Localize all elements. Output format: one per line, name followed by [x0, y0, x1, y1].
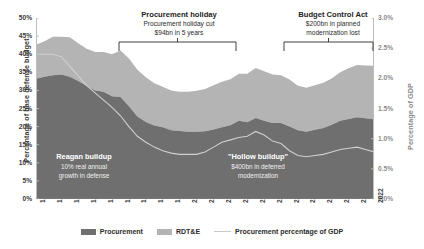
y-tick-label-right: 1.5%: [378, 105, 393, 112]
legend-item-rdte: RDT&E: [157, 228, 200, 235]
y-tick-label-left: 40%: [8, 50, 32, 57]
legend-swatch-rdte: [157, 229, 172, 235]
bracket-procurement-holiday: [118, 38, 238, 52]
annotation-line-2: $94bn in 5 years: [104, 29, 254, 38]
y-tick-label-left: 50%: [8, 14, 32, 21]
annotation-heading: Budget Control Act: [272, 10, 394, 20]
y-tick-label-right: 0.5%: [378, 165, 393, 172]
y-axis-label-right: Percentage of GDP: [406, 42, 415, 192]
bracket-budget-control-act: [283, 38, 375, 52]
y-tick-label-left: 20%: [8, 123, 32, 130]
legend-swatch-procurement: [81, 229, 96, 235]
annotation-line-1: $400bn in deferred: [204, 162, 312, 171]
annotation-line-1: $200bn in planned: [272, 20, 394, 29]
y-tick-label-left: 25%: [8, 105, 32, 112]
annotation-line-2: modernization: [204, 171, 312, 180]
y-tick-label-left: 30%: [8, 86, 32, 93]
annotation-heading: "Hollow buildup": [204, 152, 312, 162]
y-tick-label-left: 15%: [8, 141, 32, 148]
y-tick-label-right: 2.5%: [378, 44, 393, 51]
x-tick-label: 2022: [377, 188, 384, 203]
chart-legend: Procurement RDT&E Procurement percentage…: [0, 228, 424, 235]
annotation-line-2: growth in defense: [36, 171, 132, 180]
y-tick-label-left: 5%: [8, 177, 32, 184]
annotation-heading: Reagan buildup: [36, 152, 132, 162]
legend-item-procurement: Procurement: [81, 228, 143, 235]
annotation-line-1: Procurement holiday cut: [104, 20, 254, 29]
y-axis-label-left: Percentage of base defense budget: [22, 26, 31, 176]
y-tick-label-left: 0%: [8, 195, 32, 202]
y-tick-label-right: 1.0%: [378, 135, 393, 142]
annotation-line-1: 10% real annual: [36, 162, 132, 171]
y-tick-label-left: 35%: [8, 68, 32, 75]
annotation-hollow-buildup: "Hollow buildup" $400bn in deferred mode…: [204, 152, 312, 180]
legend-item-gdp-line: Procurement percentage of GDP: [214, 228, 343, 235]
annotation-heading: Procurement holiday: [104, 10, 254, 20]
defense-budget-chart: Percentage of base defense budget Percen…: [0, 0, 424, 249]
y-tick-label-right: 2.0%: [378, 74, 393, 81]
annotation-budget-control-act: Budget Control Act $200bn in planned mod…: [272, 10, 394, 37]
legend-label-rdte: RDT&E: [176, 228, 200, 235]
y-tick-label-left: 45%: [8, 32, 32, 39]
legend-label-gdp-line: Procurement percentage of GDP: [235, 228, 343, 235]
legend-swatch-gdp-line: [214, 231, 231, 232]
annotation-line-2: modernization lost: [272, 29, 394, 38]
annotation-reagan-buildup: Reagan buildup 10% real annual growth in…: [36, 152, 132, 180]
annotation-procurement-holiday: Procurement holiday Procurement holiday …: [104, 10, 254, 37]
y-tick-label-left: 10%: [8, 159, 32, 166]
legend-label-procurement: Procurement: [100, 228, 143, 235]
